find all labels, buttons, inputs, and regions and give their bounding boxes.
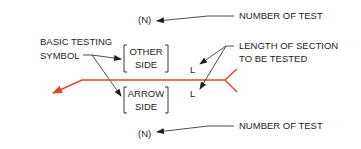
n-top-label: (N) [138,14,151,25]
arrow-side-right-bracket [165,87,168,113]
number-of-test-bottom-label: NUMBER OF TEST [239,120,323,131]
basic-testing-symbol-leader-other [83,55,121,59]
length-leader-bottom [200,46,226,89]
tail-lower [225,80,237,92]
other-side-line2: SIDE [135,59,157,70]
number-of-test-top-label: NUMBER OF TEST [239,10,323,21]
basic-testing-symbol-leader-arrow [92,55,121,96]
arrow-side-line2: SIDE [135,101,157,112]
length-top-label: L [190,64,195,75]
other-side-line1: OTHER [129,46,162,57]
number-of-test-top-leader [157,16,234,21]
number-of-test-bottom-leader [157,126,234,132]
tail-upper [225,69,237,80]
arrow-side-left-bracket [124,87,127,113]
basic-testing-symbol-label-line2: SYMBOL [40,50,80,61]
n-bottom-label: (N) [138,128,151,139]
length-of-section-label-line1: LENGTH OF SECTION [239,40,338,51]
other-side-left-bracket [124,45,127,72]
length-bottom-label: L [190,88,195,99]
arrow-side-line1: ARROW [128,88,164,99]
length-of-section-label-line2: TO BE TESTED [239,53,307,64]
other-side-right-bracket [165,45,168,72]
testing-symbol-diagram: (N) NUMBER OF TEST BASIC TESTING SYMBOL … [0,0,361,149]
basic-testing-symbol-label-line1: BASIC TESTING [40,36,112,47]
